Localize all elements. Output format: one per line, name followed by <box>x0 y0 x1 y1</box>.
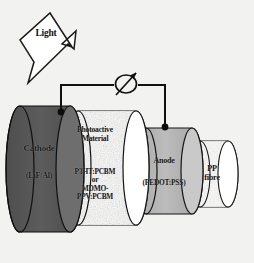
variable-meter-icon <box>116 73 137 95</box>
layer-cathode <box>6 106 84 232</box>
pp-fibre-cap <box>218 141 238 207</box>
cathode-cap <box>56 106 84 232</box>
light-bolt-shape <box>20 13 76 83</box>
cathode-terminal-node <box>58 109 65 116</box>
anode-cap <box>181 128 203 214</box>
anode-terminal-node <box>162 124 169 131</box>
photoactive-cap <box>123 111 149 225</box>
diagram-canvas <box>0 0 254 263</box>
solar-cell-diagram: Light Cathode (LiF/Al) Photoactive Mater… <box>0 0 254 263</box>
light-arrow-icon <box>20 13 76 83</box>
